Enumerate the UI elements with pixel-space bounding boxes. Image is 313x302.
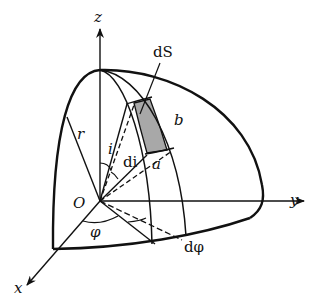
radius-label: r [77, 127, 84, 142]
x-axis-label: x [14, 281, 22, 296]
spherical-element-diagram: z y x O dS r i di b a φ dφ [0, 0, 313, 302]
patch-side-b-label: b [174, 113, 184, 128]
projection-ray [100, 201, 155, 244]
polar-angle-label: i [108, 142, 113, 157]
projection-ray-dashed [100, 201, 182, 240]
y-axis-label: y [290, 193, 298, 208]
surface-element-patch [134, 99, 167, 153]
surface-element-label: dS [153, 45, 173, 60]
patch-side-a-label: a [152, 157, 161, 172]
angle-arcs [83, 163, 146, 223]
z-axis-label: z [94, 10, 102, 25]
polar-increment-label: di [123, 155, 137, 170]
origin-label: O [73, 196, 85, 211]
x-axis [27, 201, 100, 285]
azimuth-increment-label: dφ [184, 240, 204, 255]
azimuth-angle-label: φ [90, 225, 101, 240]
